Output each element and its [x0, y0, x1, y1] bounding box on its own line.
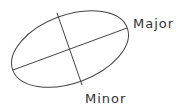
- minor-axis-label: Minor: [85, 92, 126, 105]
- minor-axis-line: [57, 13, 82, 85]
- major-axis-label: Major: [133, 17, 174, 30]
